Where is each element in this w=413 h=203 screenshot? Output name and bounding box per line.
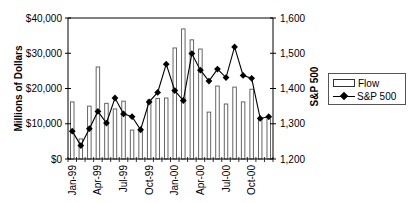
sp500-marker <box>129 113 136 120</box>
y-tick-label: $20,000 <box>26 83 63 94</box>
flow-bar <box>156 98 160 159</box>
y2-tick-label: 1,200 <box>280 154 305 165</box>
x-tick-label: Jul-00 <box>221 165 232 193</box>
sp500-marker <box>240 72 247 79</box>
x-tick-label: Oct-00 <box>246 165 257 195</box>
flow-bar <box>139 129 143 159</box>
sp500-marker <box>163 61 170 68</box>
flow-bar <box>199 49 203 159</box>
flow-bar <box>258 119 262 159</box>
legend-label-sp500: S&P 500 <box>357 91 396 102</box>
x-tick-label: Apr-00 <box>195 165 206 195</box>
y-tick-label: $40,000 <box>26 13 63 24</box>
sp500-marker <box>257 115 264 122</box>
flow-bar <box>267 119 271 159</box>
flow-bar <box>88 106 92 159</box>
sp500-marker <box>112 95 119 102</box>
sp500-line <box>72 47 268 146</box>
flow-bar <box>105 103 109 159</box>
y-tick-label: $10,000 <box>26 118 63 129</box>
flow-bar <box>250 89 254 159</box>
sp500-marker <box>231 44 238 51</box>
flow-bar <box>130 130 134 159</box>
flow-bar <box>173 48 177 159</box>
flow-bar <box>233 87 237 159</box>
legend: Flow S&P 500 <box>328 73 406 105</box>
y2-tick-label: 1,600 <box>280 13 305 24</box>
x-tick-label: Oct-99 <box>144 165 155 195</box>
sp500-marker <box>188 50 195 57</box>
y-tick-label: $30,000 <box>26 48 63 59</box>
flow-bar <box>113 109 117 159</box>
flow-bar <box>147 100 151 159</box>
sp500-marker <box>77 142 84 149</box>
y-axis-title: Millions of Dollars <box>13 45 24 132</box>
legend-label-flow: Flow <box>358 78 379 89</box>
y2-tick-label: 1,500 <box>280 48 305 59</box>
y2-axis-title: S&P 500 <box>309 66 320 106</box>
sp500-marker <box>265 113 272 120</box>
sp500-marker <box>86 125 93 132</box>
bar-swatch-icon <box>333 79 355 87</box>
line-marker-swatch-icon <box>333 90 355 102</box>
flow-bar <box>216 86 220 159</box>
sp500-marker <box>137 126 144 133</box>
flow-bar <box>122 101 126 159</box>
sp500-marker <box>69 128 76 135</box>
x-tick-label: Jan-00 <box>169 165 180 196</box>
flow-bar <box>207 112 211 159</box>
x-tick-label: Apr-99 <box>92 165 103 195</box>
y2-tick-label: 1,400 <box>280 83 305 94</box>
y2-tick-label: 1,300 <box>280 118 305 129</box>
flow-bar <box>164 98 168 159</box>
x-tick-label: Jan-99 <box>67 165 78 196</box>
flow-bar <box>224 104 228 159</box>
sp500-marker <box>248 75 255 82</box>
y-tick-label: $0 <box>51 154 63 165</box>
legend-item-sp500: S&P 500 <box>333 90 396 102</box>
flow-bar <box>241 102 245 159</box>
sp500-marker <box>120 110 127 117</box>
legend-item-flow: Flow <box>333 77 379 89</box>
x-tick-label: Jul-99 <box>118 165 129 193</box>
